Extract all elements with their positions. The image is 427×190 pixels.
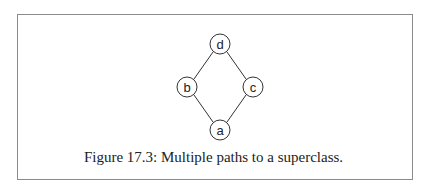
node-a: a: [210, 120, 230, 140]
edge-d-b: [194, 52, 213, 79]
node-c: c: [243, 77, 263, 97]
node-b: b: [177, 77, 197, 97]
edges: [194, 52, 246, 122]
edge-c-a: [227, 95, 246, 122]
node-d: d: [210, 34, 230, 54]
node-label-d: d: [216, 37, 223, 52]
node-label-a: a: [216, 123, 224, 138]
node-label-b: b: [183, 80, 190, 95]
edge-b-a: [194, 95, 213, 122]
figure-caption: Figure 17.3: Multiple paths to a supercl…: [0, 149, 427, 166]
node-label-c: c: [250, 80, 257, 95]
edge-d-c: [227, 52, 246, 79]
